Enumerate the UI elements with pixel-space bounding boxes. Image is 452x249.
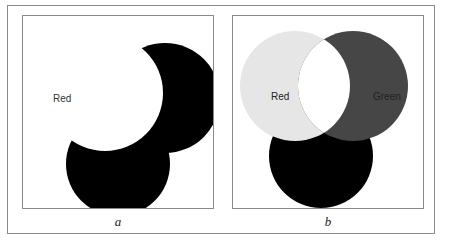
caption-b: b bbox=[308, 214, 348, 230]
venn-diagram-b: Red Green bbox=[233, 16, 424, 209]
panel-a: Red bbox=[22, 15, 214, 209]
green-label-b: Green bbox=[373, 91, 401, 102]
caption-a: a bbox=[98, 214, 138, 230]
red-label-b: Red bbox=[271, 91, 289, 102]
red-label-a: Red bbox=[53, 93, 71, 104]
panel-b: Red Green bbox=[232, 15, 424, 209]
venn-diagram-a: Red bbox=[23, 16, 214, 209]
